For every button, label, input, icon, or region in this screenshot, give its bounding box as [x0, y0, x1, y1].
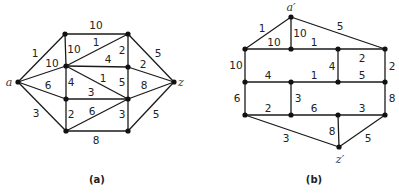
edge-weight-label: 1 — [93, 36, 100, 48]
edge-weight-label: 3 — [33, 107, 40, 119]
vertex-dot — [288, 79, 293, 84]
edge-weight-label: 3 — [88, 86, 95, 98]
edge — [245, 115, 339, 147]
edge — [128, 82, 174, 131]
vertex-dot — [125, 31, 130, 36]
edge — [338, 115, 339, 147]
edge-weight-label: 4 — [105, 53, 112, 65]
edge — [65, 34, 66, 66]
edge-weight-label: 8 — [141, 79, 148, 91]
edge-weight-label: 6 — [311, 102, 318, 114]
vertex-dot — [125, 96, 130, 101]
vertex-dot — [125, 64, 130, 69]
edge-weight-label: 2 — [359, 52, 366, 64]
edge — [18, 82, 66, 131]
edge-weight-label: 10 — [45, 57, 58, 69]
vertex-dot — [242, 46, 247, 51]
edge-weight-label: 8 — [93, 134, 100, 146]
edge-weight-label: 5 — [365, 132, 372, 144]
vertex-label: z′ — [335, 153, 345, 166]
edge-weight-label: 3 — [359, 102, 366, 114]
vertex-dot — [382, 79, 387, 84]
edge-weight-label: 10 — [67, 43, 80, 55]
figure-caption: (b) — [306, 174, 322, 185]
edge-weight-label: 6 — [45, 79, 52, 91]
vertex-dot — [63, 63, 68, 68]
edge — [18, 82, 66, 99]
edge-weight-label: 2 — [265, 102, 272, 114]
edge-weight-label: 3 — [295, 92, 302, 104]
vertex-dot — [62, 31, 67, 36]
edge-weight-label: 4 — [329, 60, 336, 72]
edge-weight-label: 10 — [89, 19, 102, 31]
edge-weight-label: 2 — [119, 44, 126, 56]
edge-weight-label: 6 — [234, 92, 241, 104]
vertex-dot — [171, 79, 176, 84]
vertex-dot — [288, 112, 293, 117]
vertex-dot — [63, 96, 68, 101]
edge-weight-label: 5 — [153, 108, 160, 120]
vertex-label: a — [6, 76, 13, 89]
weighted-graph-b: 110510110424152638263385a′z′(b) — [229, 1, 395, 185]
edge-weight-label: 5 — [155, 47, 162, 59]
edge-weight-label: 5 — [359, 69, 366, 81]
vertex-dot — [288, 14, 293, 19]
edge-weight-label: 1 — [32, 47, 39, 59]
edge-weight-label: 3 — [283, 132, 290, 144]
edge-weight-label: 2 — [389, 60, 396, 72]
edge-weight-label: 8 — [329, 125, 336, 137]
edge-weight-label: 4 — [265, 69, 272, 81]
edge-weight-label: 1 — [311, 69, 318, 81]
edge — [66, 66, 128, 67]
vertex-label: z — [177, 76, 184, 89]
graph-figure: 101101241015463258326385az(a) 1105101104… — [0, 0, 399, 193]
edge-weight-label: 8 — [389, 92, 396, 104]
edge-weight-label: 2 — [68, 108, 75, 120]
edge-weight-label: 6 — [89, 105, 96, 117]
edge-weight-label: 10 — [293, 27, 306, 39]
vertex-dot — [242, 79, 247, 84]
vertex-dot — [335, 112, 340, 117]
edge-weight-label: 1 — [100, 72, 107, 84]
vertex-dot — [63, 128, 68, 133]
figure-caption: (a) — [89, 174, 105, 185]
vertex-dot — [15, 79, 20, 84]
edge-weight-label: 3 — [119, 108, 126, 120]
weighted-graph-a: 101101241015463258326385az(a) — [6, 19, 184, 185]
vertex-dot — [125, 128, 130, 133]
vertex-dot — [382, 46, 387, 51]
vertex-dot — [336, 144, 341, 149]
edge-weight-label: 5 — [337, 20, 344, 32]
edge-weight-label: 1 — [311, 36, 318, 48]
edge-weight-label: 10 — [229, 59, 242, 71]
vertex-dot — [335, 79, 340, 84]
edge-weight-label: 5 — [119, 76, 126, 88]
edge — [128, 82, 174, 99]
edge-weight-label: 4 — [68, 76, 75, 88]
vertex-dot — [335, 46, 340, 51]
edge-weight-label: 2 — [140, 58, 147, 70]
vertex-label: a′ — [286, 1, 296, 14]
vertex-dot — [382, 112, 387, 117]
edge — [339, 115, 385, 147]
vertex-dot — [242, 112, 247, 117]
edge-weight-label: 10 — [267, 36, 280, 48]
vertex-dot — [288, 46, 293, 51]
edge-weight-label: 1 — [259, 22, 266, 34]
